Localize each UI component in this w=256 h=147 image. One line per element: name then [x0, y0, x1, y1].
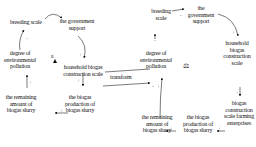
- transform-label: transform: [110, 74, 132, 81]
- line: household: [220, 40, 254, 47]
- line: production of: [179, 121, 217, 128]
- sign-plus: +: [60, 108, 63, 113]
- sign-plus: +: [232, 30, 235, 35]
- line: scale: [220, 60, 254, 67]
- line: biogas: [220, 47, 254, 54]
- node-biogas-production-right: the biogas production of biogas slurry: [179, 114, 217, 134]
- sign-plus: +: [79, 52, 82, 57]
- node-breeding-scale-left: breeding scale: [10, 19, 42, 26]
- node-household-biogas-right: household biogas construction scale: [220, 40, 254, 66]
- node-degree-pollution-left: degree of environmental pollution: [2, 50, 38, 70]
- node-degree-pollution-right: degree of environmental pollution: [138, 50, 174, 70]
- line: degree of: [138, 50, 174, 57]
- node-government-support-left: the government support: [57, 18, 97, 31]
- node-government-support-right: the government support: [184, 5, 218, 25]
- sign-minus: -: [152, 84, 154, 89]
- node-household-biogas-left: household biogas construction scale: [58, 64, 108, 77]
- line: construction scale: [58, 71, 108, 78]
- node-biogas-production-left: the biogas production of biogas slurry: [62, 94, 98, 114]
- line: the remaining: [2, 94, 40, 101]
- line: environmental: [2, 57, 38, 64]
- line: construction: [222, 107, 256, 114]
- line: biogas: [222, 100, 256, 107]
- line: support: [184, 18, 218, 25]
- balance-loop-icon: B: [51, 54, 57, 63]
- line: amount of: [2, 101, 40, 108]
- line: the biogas: [62, 94, 98, 101]
- sign-minus: -: [154, 38, 156, 43]
- sign-minus: -: [26, 36, 28, 41]
- line: biogas slurry: [2, 107, 40, 114]
- line: pollution: [138, 63, 174, 70]
- sign-plus: +: [170, 126, 173, 131]
- line: scale: [148, 15, 174, 22]
- line: government: [184, 12, 218, 19]
- sign-plus: +: [157, 84, 160, 89]
- line: the: [184, 5, 218, 12]
- node-breeding-scale-right: breeding scale: [148, 8, 174, 21]
- line: production of: [62, 101, 98, 108]
- triangle-icon: [53, 59, 57, 63]
- sign-plus: +: [236, 90, 239, 95]
- node-biogas-construction-farming-right: biogas construction scale farming enterp…: [222, 100, 256, 126]
- line: construction: [220, 53, 254, 60]
- line: environmental: [138, 57, 174, 64]
- line: breeding: [148, 8, 174, 15]
- line: the biogas: [179, 114, 217, 121]
- line: pollution: [2, 63, 38, 70]
- sign-plus: +: [218, 126, 221, 131]
- line: enterprises: [222, 120, 256, 127]
- line: the remaining: [138, 114, 176, 121]
- line: household biogas: [58, 64, 108, 71]
- line: degree of: [2, 50, 38, 57]
- sign-plus: +: [77, 78, 80, 83]
- line: biogas slurry: [179, 127, 217, 134]
- sign-minus: -: [180, 13, 182, 18]
- sign-plus: +: [29, 80, 32, 85]
- node-remaining-slurry-left: the remaining amount of biogas slurry: [2, 94, 40, 114]
- balance-loop-icon-right: ⚖: [183, 62, 189, 70]
- line: biogas slurry: [62, 107, 98, 114]
- line: scale farming: [222, 113, 256, 120]
